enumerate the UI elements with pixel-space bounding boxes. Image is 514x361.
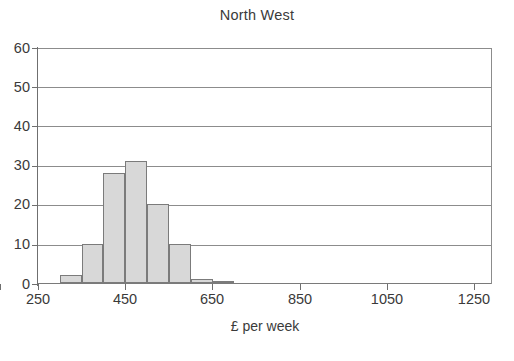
y-tick-label: 60 <box>4 41 30 56</box>
x-tick-label: 1050 <box>357 292 417 308</box>
chart-title: North West <box>0 7 514 23</box>
histogram-bar <box>125 161 147 283</box>
x-tick-mark <box>474 284 475 290</box>
chart-figure: North West 60 50 40 30 20 10 0 250 450 6… <box>0 0 514 361</box>
y-tick-label: 30 <box>4 158 30 173</box>
y-tick-label: 50 <box>4 80 30 95</box>
histogram-bar <box>60 275 82 283</box>
histogram-bar <box>213 281 235 283</box>
y-tick-label: 10 <box>4 237 30 252</box>
gridline-0 <box>38 283 492 284</box>
x-tick-label: 650 <box>182 292 242 308</box>
gridline-60 <box>38 48 492 49</box>
x-tick-mark <box>125 284 126 290</box>
histogram-bar <box>103 173 125 283</box>
x-tick-mark <box>212 284 213 290</box>
y-tick-label: 40 <box>4 119 30 134</box>
histogram-bar <box>147 204 169 283</box>
plot-area <box>38 48 492 284</box>
x-tick-label: 850 <box>270 292 330 308</box>
x-tick-mark <box>300 284 301 290</box>
histogram-bar <box>82 244 104 283</box>
y-tick-label: 20 <box>4 197 30 212</box>
x-tick-mark <box>38 284 39 290</box>
gridline-50 <box>38 87 492 88</box>
x-tick-label: 250 <box>8 292 68 308</box>
x-tick-label: 1250 <box>444 292 504 308</box>
plot-right-edge <box>491 48 492 284</box>
x-axis-label: £ per week <box>38 318 492 334</box>
x-tick-mark <box>387 284 388 290</box>
histogram-bar <box>169 244 191 283</box>
gridline-30 <box>38 166 492 167</box>
x-tick-label: 450 <box>95 292 155 308</box>
gridline-40 <box>38 126 492 127</box>
histogram-bar <box>191 279 213 283</box>
y-tick-label: 0 <box>4 277 30 292</box>
